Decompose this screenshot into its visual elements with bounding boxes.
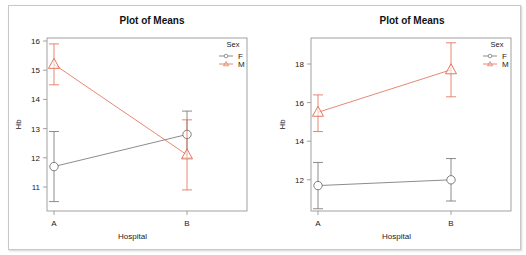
legend-circle-icon xyxy=(488,54,492,58)
y-axis-label: Hb xyxy=(14,119,23,130)
y-tick-label: 16 xyxy=(31,37,40,46)
legend: SexFM xyxy=(483,40,509,69)
chart-title: Plot of Means xyxy=(119,15,184,26)
y-tick-label: 16 xyxy=(295,99,304,108)
mean-line xyxy=(54,134,187,166)
series-M xyxy=(49,44,193,190)
chart-title: Plot of Means xyxy=(379,15,444,26)
triangle-marker-icon xyxy=(182,149,193,159)
x-axis: AB xyxy=(51,211,189,228)
plot-area xyxy=(311,38,511,211)
circle-marker-icon xyxy=(447,176,455,184)
plot-of-means-chart-2: Plot of Means12141618HbABHospitalSexFM xyxy=(278,15,511,241)
legend-circle-icon xyxy=(224,54,228,58)
y-tick-label: 14 xyxy=(31,95,40,104)
x-tick-label: A xyxy=(315,219,321,228)
x-tick-label: B xyxy=(184,219,189,228)
y-tick-label: 12 xyxy=(295,176,304,185)
y-tick-label: 13 xyxy=(31,125,40,134)
y-axis: 111213141516 xyxy=(31,37,47,192)
legend: SexFM xyxy=(219,40,245,69)
legend-entry-M: M xyxy=(238,60,245,69)
legend-entry-M: M xyxy=(502,60,509,69)
x-axis-label: Hospital xyxy=(118,232,147,241)
series-F xyxy=(49,111,192,202)
charts-canvas: Plot of Means111213141516HbABHospitalSex… xyxy=(0,0,526,255)
plot-area xyxy=(47,38,247,211)
triangle-marker-icon xyxy=(49,58,60,68)
mean-line xyxy=(318,180,451,186)
plot-of-means-chart-1: Plot of Means111213141516HbABHospitalSex… xyxy=(14,15,247,241)
y-tick-label: 18 xyxy=(295,60,304,69)
circle-marker-icon xyxy=(50,162,58,170)
circle-marker-icon xyxy=(314,181,322,189)
series-F xyxy=(313,159,456,209)
series-M xyxy=(313,43,457,132)
x-axis: AB xyxy=(315,211,453,228)
x-axis-label: Hospital xyxy=(382,232,411,241)
mean-line xyxy=(318,70,451,112)
y-axis-label: Hb xyxy=(278,119,287,130)
y-tick-label: 15 xyxy=(31,66,40,75)
y-tick-label: 14 xyxy=(295,137,304,146)
mean-line xyxy=(54,64,187,155)
legend-title: Sex xyxy=(227,40,240,49)
y-tick-label: 11 xyxy=(32,183,41,192)
y-tick-label: 12 xyxy=(31,154,40,163)
triangle-marker-icon xyxy=(446,64,457,74)
x-tick-label: B xyxy=(448,219,453,228)
y-axis: 12141618 xyxy=(295,60,311,185)
legend-title: Sex xyxy=(491,40,504,49)
x-tick-label: A xyxy=(51,219,57,228)
